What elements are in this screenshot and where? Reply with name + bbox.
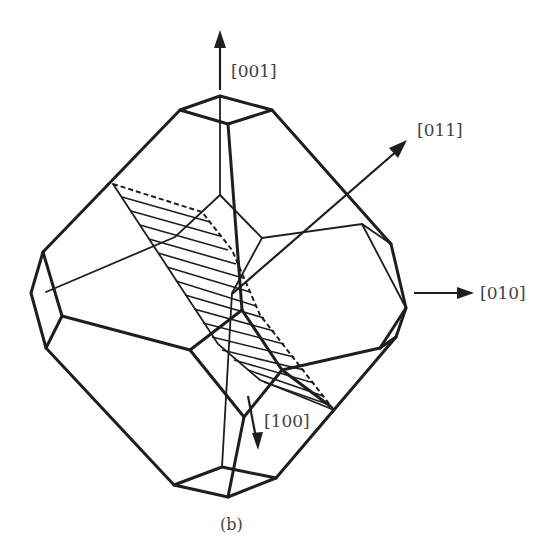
axis-100: [100] (248, 396, 310, 450)
axis-label-100: [100] (264, 411, 310, 431)
axis-label-011: [011] (417, 120, 463, 140)
axis-001: [001] (214, 30, 277, 90)
axis-label-001: [001] (231, 61, 277, 81)
figure-caption: (b) (220, 515, 243, 534)
axis-011: [011] (232, 120, 463, 294)
truncated-octahedron-diagram: [001] [011] [010] [100] (b) (0, 0, 547, 558)
crystal-outline (31, 96, 406, 497)
arrow-right-icon (457, 287, 474, 299)
hatched-plane (113, 184, 334, 410)
back-edges (46, 96, 406, 467)
axis-label-010: [010] (480, 283, 526, 303)
axis-010: [010] (414, 283, 526, 303)
arrow-up-icon (214, 30, 226, 48)
arrow-down-icon (252, 432, 263, 450)
